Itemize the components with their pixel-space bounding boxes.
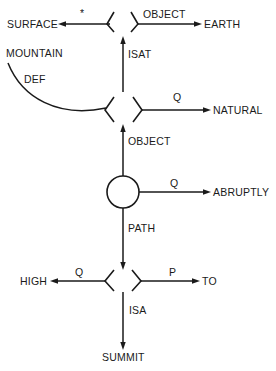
edge-label-def: DEF [24, 73, 46, 85]
edge-label-p-to: P [169, 266, 176, 278]
arrowhead-right-icon [203, 189, 211, 194]
top-node-right-bracket [131, 12, 138, 32]
arrowhead-down-icon [120, 262, 125, 270]
arrowhead-right-icon [192, 278, 200, 283]
node-abruptly: ABRUPTLY [213, 186, 269, 198]
arrowhead-left-icon [50, 278, 58, 283]
edge-path: PATH [120, 208, 155, 270]
arrowhead-up-icon [120, 36, 125, 44]
node-to: TO [202, 275, 217, 287]
node-high: HIGH [20, 275, 47, 287]
circle-node [107, 176, 139, 208]
arrowhead-left-icon [58, 21, 66, 26]
edge-p-to: P [141, 266, 200, 284]
edge-object-mid: OBJECT [120, 124, 171, 176]
edge-def: DEF [8, 63, 106, 111]
bottom-node-left-bracket [105, 270, 114, 291]
arrowhead-down-icon [120, 342, 125, 350]
edge-label-path: PATH [128, 222, 155, 234]
bottom-node [105, 270, 141, 291]
top-node [107, 12, 138, 32]
edge-label-q-abruptly: Q [170, 177, 178, 189]
edge-q-abruptly: Q [139, 177, 211, 195]
bottom-node-right-bracket [132, 270, 141, 291]
edge-label-isat: ISAT [128, 48, 152, 60]
middle-node-right-bracket [133, 97, 142, 122]
edge-label-q-natural: Q [173, 91, 181, 103]
arrowhead-right-icon [203, 107, 211, 112]
edge-label-object-mid: OBJECT [128, 135, 171, 147]
edge-label-star: * [80, 7, 84, 19]
node-earth: EARTH [204, 18, 240, 30]
edge-label-object-top: OBJECT [143, 8, 186, 20]
edge-isa: ISA [120, 292, 146, 350]
middle-node [105, 97, 142, 122]
arrowhead-up-icon [120, 124, 125, 132]
node-natural: NATURAL [213, 104, 263, 116]
edge-isat: ISAT [120, 36, 151, 92]
edge-star-surface: * [58, 7, 108, 27]
edge-label-isa: ISA [129, 304, 147, 316]
edge-q-high: Q [50, 266, 105, 284]
arrowhead-right-icon [194, 21, 202, 26]
node-mountain: MOUNTAIN [6, 47, 63, 59]
node-surface: SURFACE [7, 18, 58, 30]
top-node-left-bracket [107, 12, 114, 32]
edge-object-earth: OBJECT [138, 8, 202, 27]
edge-q-natural: Q [142, 91, 211, 113]
node-summit: SUMMIT [102, 351, 145, 363]
semantic-network-diagram: * SURFACE OBJECT EARTH ISAT MOUNTAIN DEF… [0, 0, 276, 371]
middle-node-left-bracket [105, 97, 114, 122]
edge-label-q-high: Q [75, 266, 83, 278]
